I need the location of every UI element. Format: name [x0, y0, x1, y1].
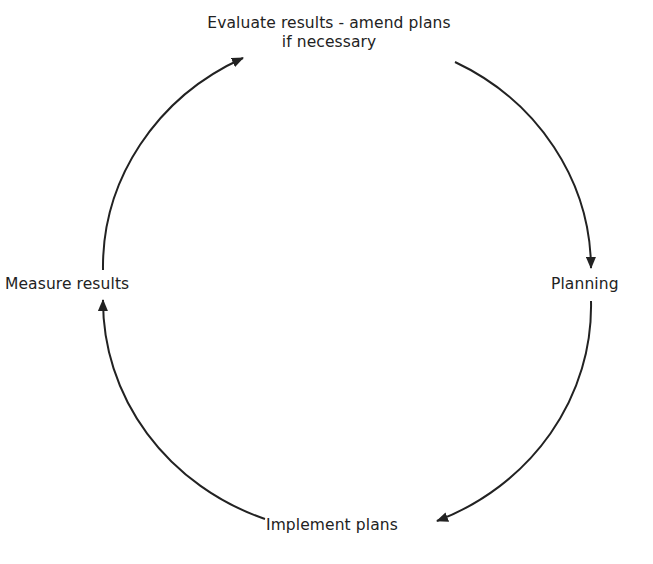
node-measure-results: Measure results: [5, 275, 129, 294]
arrow-planning-to-implement: [437, 301, 591, 521]
node-planning: Planning: [551, 275, 619, 294]
arrow-evaluate-to-planning: [455, 62, 591, 268]
node-implement-plans: Implement plans: [266, 516, 398, 535]
arrow-implement-to-measure: [103, 300, 265, 519]
node-evaluate-line1: Evaluate results - amend plans: [198, 14, 460, 33]
node-evaluate-results: Evaluate results - amend plans if necess…: [198, 14, 460, 52]
node-evaluate-line2: if necessary: [198, 33, 460, 52]
arrow-measure-to-evaluate: [103, 58, 243, 270]
